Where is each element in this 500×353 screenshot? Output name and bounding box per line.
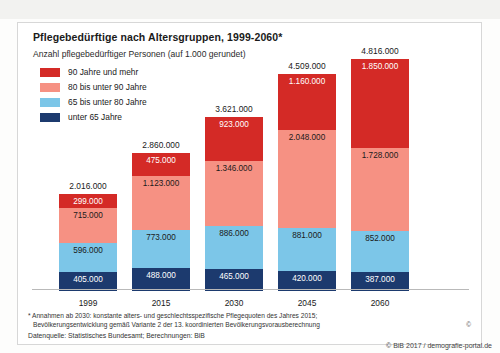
chart-page: Pflegebedürftige nach Altersgruppen, 199… bbox=[0, 0, 500, 353]
x-axis-label: 2015 bbox=[132, 298, 190, 308]
x-axis-label: 2060 bbox=[351, 298, 409, 308]
bar-segment-label: 1.123.000 bbox=[132, 179, 190, 188]
bar-segment: 773.000 bbox=[132, 230, 190, 267]
credit-line: © BiB 2017 / demografie-portal.de bbox=[386, 342, 492, 349]
bar-segment: 465.000 bbox=[205, 269, 263, 291]
bar-segment-label: 773.000 bbox=[132, 233, 190, 242]
bar-total-label: 3.621.000 bbox=[195, 104, 273, 114]
bar-segment: 923.000 bbox=[205, 117, 263, 161]
bar-total-label: 4.816.000 bbox=[341, 46, 419, 56]
bar-segment: 881.000 bbox=[278, 228, 336, 270]
bar-segment-label: 852.000 bbox=[351, 234, 409, 243]
bar-total-label: 4.509.000 bbox=[268, 61, 346, 71]
x-axis-label: 2030 bbox=[205, 298, 263, 308]
bar-segment-label: 1.728.000 bbox=[351, 151, 409, 160]
source-line: Datenquelle: Statistisches Bundesamt; Be… bbox=[28, 332, 205, 339]
bar-segment-label: 2.048.000 bbox=[278, 133, 336, 142]
footnote-line-2: Bevölkerungsentwicklung gemäß Variante 2… bbox=[28, 320, 428, 330]
bar-segment-label: 886.000 bbox=[205, 229, 263, 238]
bar-stack: 3.621.000923.0001.346.000886.000465.000 bbox=[205, 117, 263, 291]
x-axis-label: 2045 bbox=[278, 298, 336, 308]
bar-stack: 4.816.0001.850.0001.728.000852.000387.00… bbox=[351, 59, 409, 291]
bar-segment: 886.000 bbox=[205, 226, 263, 269]
bar-stack: 2.860.000475.0001.123.000773.000488.000 bbox=[132, 153, 190, 291]
bar-segment: 852.000 bbox=[351, 231, 409, 272]
bar-segment: 1.728.000 bbox=[351, 148, 409, 231]
bar-segment-label: 299.000 bbox=[59, 197, 117, 206]
bar-segment-label: 715.000 bbox=[59, 211, 117, 220]
bar-stack: 4.509.0001.160.0002.048.000881.000420.00… bbox=[278, 74, 336, 291]
bar-segment: 488.000 bbox=[132, 268, 190, 292]
top-strip bbox=[0, 0, 500, 19]
bar-segment-label: 387.000 bbox=[351, 275, 409, 284]
footnote-line-1: * Annahmen ab 2030: konstante alters- un… bbox=[28, 312, 317, 319]
bar-total-label: 2.016.000 bbox=[49, 181, 127, 191]
bar-segment-label: 923.000 bbox=[205, 120, 263, 129]
bar-segment: 1.123.000 bbox=[132, 176, 190, 230]
bar-total-label: 2.860.000 bbox=[122, 140, 200, 150]
bar-segment-label: 488.000 bbox=[132, 271, 190, 280]
x-axis-label: 1999 bbox=[59, 298, 117, 308]
chart-card: Pflegebedürftige nach Altersgruppen, 199… bbox=[17, 22, 482, 345]
plot-area: 2.016.000299.000715.000596.000405.000199… bbox=[18, 23, 483, 346]
bar-segment-label: 475.000 bbox=[132, 156, 190, 165]
bar-segment: 420.000 bbox=[278, 271, 336, 291]
bar-segment: 715.000 bbox=[59, 208, 117, 242]
bar-segment-label: 596.000 bbox=[59, 246, 117, 255]
bar-stack: 2.016.000299.000715.000596.000405.000 bbox=[59, 194, 117, 291]
bar-segment-label: 465.000 bbox=[205, 272, 263, 281]
bar-segment: 299.000 bbox=[59, 194, 117, 208]
bar-segment-label: 1.346.000 bbox=[205, 164, 263, 173]
bar-segment-label: 1.850.000 bbox=[351, 62, 409, 71]
bar-segment: 1.850.000 bbox=[351, 59, 409, 148]
bar-segment: 2.048.000 bbox=[278, 130, 336, 229]
bar-segment: 596.000 bbox=[59, 243, 117, 272]
bar-segment: 1.160.000 bbox=[278, 74, 336, 130]
bar-segment-label: 420.000 bbox=[278, 274, 336, 283]
bar-segment: 475.000 bbox=[132, 153, 190, 176]
copyright-mark: © bbox=[466, 321, 471, 328]
bar-segment-label: 405.000 bbox=[59, 275, 117, 284]
footnote: * Annahmen ab 2030: konstante alters- un… bbox=[28, 311, 428, 330]
bar-segment-label: 1.160.000 bbox=[278, 77, 336, 86]
x-axis-line bbox=[32, 289, 469, 290]
bar-segment: 1.346.000 bbox=[205, 161, 263, 226]
bar-segment-label: 881.000 bbox=[278, 231, 336, 240]
